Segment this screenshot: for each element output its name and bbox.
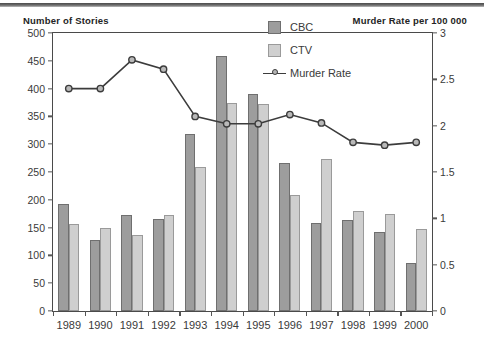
right-axis-title: Murder Rate per 100 000 [353, 15, 467, 26]
left-y-tick-label: 50 [33, 278, 45, 289]
left-y-tick-label: 300 [27, 139, 45, 150]
x-tick [211, 311, 212, 316]
x-tick-label: 1998 [341, 320, 365, 331]
right-y-tick-label: 2.5 [440, 74, 455, 85]
x-tick [179, 311, 180, 316]
x-tick [148, 311, 149, 316]
x-tick-label: 2000 [404, 320, 428, 331]
square-swatch-icon [268, 44, 281, 57]
left-y-tick-label: 100 [27, 250, 45, 261]
murder-rate-point-1998 [350, 139, 356, 145]
legend-label-cbc: CBC [290, 21, 313, 33]
murder-rate-line [53, 33, 432, 311]
legend-item-murder-rate: Murder Rate [268, 63, 351, 83]
left-y-tick-label: 250 [27, 167, 45, 178]
left-y-tick-label: 400 [27, 83, 45, 94]
legend-label-murder-rate: Murder Rate [290, 67, 351, 79]
legend-item-cbc: CBC [268, 17, 351, 37]
murder-rate-point-1990 [97, 85, 103, 91]
murder-rate-point-1996 [287, 111, 293, 117]
x-tick-label: 1994 [214, 320, 238, 331]
plot-area: 050100150200250300350400450500 00.511.52… [52, 32, 433, 312]
right-y-tick-label: 2 [440, 120, 446, 131]
chart-legend: CBC CTV Murder Rate [268, 17, 351, 86]
left-y-tick-label: 500 [27, 28, 45, 39]
x-tick [337, 311, 338, 316]
square-swatch-icon [268, 21, 281, 34]
legend-item-ctv: CTV [268, 40, 351, 60]
murder-rate-point-1993 [192, 113, 198, 119]
left-axis-title: Number of Stories [23, 15, 109, 26]
left-y-tick-label: 150 [27, 222, 45, 233]
right-y-tick-label: 0.5 [440, 259, 455, 270]
x-tick-label: 1993 [183, 320, 207, 331]
left-y-tick-label: 350 [27, 111, 45, 122]
murder-rate-point-1994 [224, 121, 230, 127]
chart-figure: Number of Stories Murder Rate per 100 00… [0, 0, 484, 351]
x-tick [243, 311, 244, 316]
x-tick [306, 311, 307, 316]
murder-rate-point-1995 [255, 121, 261, 127]
x-tick [400, 311, 401, 316]
murder-rate-point-1999 [381, 142, 387, 148]
top-divider-rule [0, 3, 484, 7]
murder-rate-point-1997 [318, 120, 324, 126]
x-tick [274, 311, 275, 316]
right-y-tick-label: 0 [440, 306, 446, 317]
legend-label-ctv: CTV [290, 44, 312, 56]
x-tick-label: 1996 [278, 320, 302, 331]
left-y-tick-label: 450 [27, 56, 45, 67]
x-tick-label: 1990 [88, 320, 112, 331]
x-tick-label: 1997 [309, 320, 333, 331]
right-y-tick-label: 1.5 [440, 167, 455, 178]
x-tick [53, 311, 54, 316]
right-y-tick-label: 3 [440, 28, 446, 39]
x-tick-label: 1989 [57, 320, 81, 331]
x-tick-label: 1995 [246, 320, 270, 331]
x-tick-label: 1992 [151, 320, 175, 331]
murder-rate-point-1991 [129, 57, 135, 63]
murder-rate-polyline [69, 60, 416, 145]
line-marker-icon [268, 67, 281, 80]
right-y-tick [432, 171, 437, 172]
right-y-tick [432, 32, 437, 33]
murder-rate-point-2000 [413, 139, 419, 145]
x-tick [369, 311, 370, 316]
x-tick [116, 311, 117, 316]
right-y-tick [432, 218, 437, 219]
x-tick-label: 1991 [120, 320, 144, 331]
left-y-tick-label: 200 [27, 195, 45, 206]
x-tick [432, 311, 433, 316]
right-y-tick [432, 79, 437, 80]
left-y-tick-label: 0 [39, 306, 45, 317]
murder-rate-point-1989 [66, 85, 72, 91]
x-tick-label: 1999 [372, 320, 396, 331]
right-y-tick [432, 125, 437, 126]
right-y-tick-label: 1 [440, 213, 446, 224]
x-tick [85, 311, 86, 316]
right-y-tick [432, 264, 437, 265]
murder-rate-point-1992 [160, 66, 166, 72]
